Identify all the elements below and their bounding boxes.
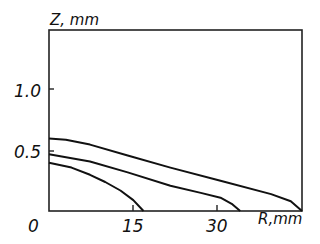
x-axis-label: R,mm — [258, 210, 302, 228]
curve-1 — [49, 139, 302, 211]
plot-frame — [49, 30, 302, 211]
x-tick-label-30: 30 — [206, 216, 228, 236]
chart: Z, mm R,mm 0 15 30 0.5 1.0 — [0, 0, 320, 244]
x-tick-label-15: 15 — [122, 216, 144, 236]
y-tick-label-0.5: 0.5 — [14, 142, 41, 162]
origin-label: 0 — [28, 216, 39, 236]
curve-2 — [49, 154, 240, 211]
curve-3 — [49, 163, 144, 211]
y-axis-label: Z, mm — [49, 11, 99, 29]
y-tick-label-1.0: 1.0 — [14, 81, 41, 101]
curves — [49, 139, 302, 211]
